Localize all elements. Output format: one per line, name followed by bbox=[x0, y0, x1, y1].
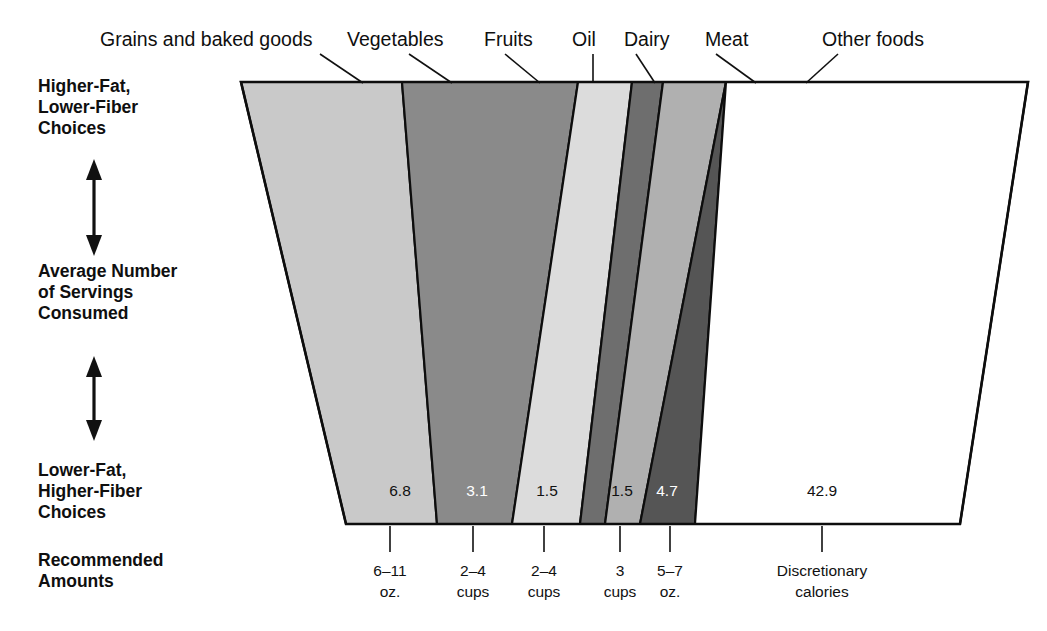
axis-label-lower-fat-line-3: Choices bbox=[38, 502, 106, 522]
recommended-grains-and-baked-goods-line-1: 6–11 bbox=[373, 562, 406, 579]
category-label-vegetables[interactable]: Vegetables bbox=[347, 28, 444, 50]
band-value-grains-and-baked-goods: 6.8 bbox=[389, 482, 411, 499]
axis-label-lower-fat-line-2: Higher-Fiber bbox=[38, 481, 142, 501]
leader-line-other-foods bbox=[806, 54, 838, 83]
axis-label-lower-fat: Lower-Fat, Higher-Fiber Choices bbox=[38, 460, 142, 522]
leader-line-grains-and-baked-goods bbox=[320, 54, 363, 83]
leader-line-dairy bbox=[636, 54, 655, 83]
category-label-oil[interactable]: Oil bbox=[572, 28, 596, 50]
axis-label-average-servings: Average Number of Servings Consumed bbox=[38, 261, 178, 323]
recommended-meat-line-1: 5–7 bbox=[657, 562, 683, 579]
category-label-dairy[interactable]: Dairy bbox=[624, 28, 670, 50]
band-value-fruits: 1.5 bbox=[536, 482, 558, 499]
leader-lines-group bbox=[320, 54, 838, 83]
axis-label-average-line-1: Average Number bbox=[38, 261, 178, 281]
axis-label-recommended-line-2: Amounts bbox=[38, 571, 114, 591]
axis-label-recommended-amounts: Recommended Amounts bbox=[38, 550, 163, 591]
category-label-grains-and-baked-goods[interactable]: Grains and baked goods bbox=[100, 28, 313, 50]
band-value-vegetables: 3.1 bbox=[466, 482, 488, 499]
leader-line-meat bbox=[716, 54, 756, 83]
axis-label-higher-fat-line-3: Choices bbox=[38, 118, 106, 138]
axis-arrow-upper bbox=[86, 159, 102, 256]
axis-label-higher-fat-line-1: Higher-Fat, bbox=[38, 76, 130, 96]
axis-label-average-line-2: of Servings bbox=[38, 282, 134, 302]
axis-label-lower-fat-line-1: Lower-Fat, bbox=[38, 460, 126, 480]
recommended-dairy-line-2: cups bbox=[604, 583, 637, 600]
axis-label-recommended-line-1: Recommended bbox=[38, 550, 163, 570]
band-value-other-foods: 42.9 bbox=[807, 482, 837, 499]
recommended-other-foods-line-2: calories bbox=[795, 583, 849, 600]
band-value-meat: 4.7 bbox=[656, 482, 678, 499]
recommended-tick-marks-group bbox=[390, 526, 822, 552]
category-label-other-foods[interactable]: Other foods bbox=[822, 28, 924, 50]
axis-label-higher-fat-line-2: Lower-Fiber bbox=[38, 97, 138, 117]
recommended-meat-line-2: oz. bbox=[660, 583, 681, 600]
recommended-vegetables-line-2: cups bbox=[457, 583, 490, 600]
axis-label-average-line-3: Consumed bbox=[38, 303, 128, 323]
recommended-fruits-line-2: cups bbox=[528, 583, 561, 600]
recommended-other-foods-line-1: Discretionary bbox=[777, 562, 868, 579]
figure-canvas: Grains and baked goodsVegetablesFruitsOi… bbox=[0, 0, 1047, 631]
leader-line-fruits bbox=[505, 54, 540, 83]
recommended-fruits-line-1: 2–4 bbox=[531, 562, 557, 579]
category-labels-group: Grains and baked goodsVegetablesFruitsOi… bbox=[100, 28, 924, 50]
recommended-vegetables-line-1: 2–4 bbox=[460, 562, 486, 579]
axis-arrow-lower bbox=[86, 356, 102, 441]
recommended-dairy-line-1: 3 bbox=[616, 562, 625, 579]
recommended-grains-and-baked-goods-line-2: oz. bbox=[380, 583, 401, 600]
recommended-amount-labels-group: 6–11oz.2–4cups2–4cups3cups5–7oz.Discreti… bbox=[373, 562, 867, 600]
leader-line-vegetables bbox=[409, 54, 452, 83]
band-other-foods[interactable] bbox=[695, 82, 1028, 524]
band-value-dairy: 1.5 bbox=[611, 482, 633, 499]
category-label-fruits[interactable]: Fruits bbox=[484, 28, 533, 50]
axis-label-higher-fat: Higher-Fat, Lower-Fiber Choices bbox=[38, 76, 138, 138]
category-label-meat[interactable]: Meat bbox=[705, 28, 749, 50]
nutrition-trapezoid-figure: Grains and baked goodsVegetablesFruitsOi… bbox=[0, 0, 1047, 631]
band-shapes-group bbox=[241, 82, 1028, 524]
